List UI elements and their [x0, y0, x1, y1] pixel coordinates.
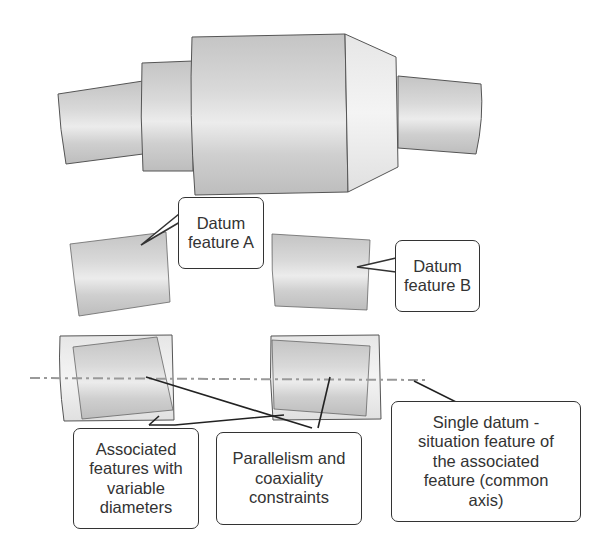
diagram-stage: Datum feature A Datum feature B Associat… [0, 0, 610, 555]
datum-b-line2: feature B [404, 276, 471, 296]
datum-a-line2: feature A [188, 233, 254, 253]
constraints-line2: coaxiality [255, 469, 323, 489]
callout-single-datum: Single datum - situation feature of the … [391, 401, 581, 522]
shaft-right-journal [398, 76, 482, 154]
datum-b-line1: Datum [413, 257, 462, 277]
datum-feature-b-shape [272, 234, 370, 310]
callout-datum-feature-a: Datum feature A [178, 197, 264, 269]
associated-line3: variable [107, 479, 165, 499]
datum-line1: Single datum - [433, 413, 539, 433]
associated-feature-b [270, 335, 381, 420]
shaft-left-shoulder [141, 61, 193, 171]
shaft-part [58, 34, 482, 195]
datum-line3: the associated [433, 452, 539, 472]
datum-a-line1: Datum [197, 214, 246, 234]
constraints-line3: constraints [249, 488, 329, 508]
callout-datum-feature-b: Datum feature B [395, 240, 480, 312]
datum-line4: feature (common [424, 471, 549, 491]
datum-line2: situation feature of [418, 432, 554, 452]
associated-line4: diameters [100, 498, 172, 518]
associated-line2: features with [89, 459, 183, 479]
callout-associated-features: Associated features with variable diamet… [73, 428, 199, 529]
datum-line5: axis) [469, 491, 504, 511]
constraints-line1: Parallelism and [233, 449, 346, 469]
shaft-cone [345, 34, 398, 192]
datum-feature-a-shape [70, 232, 170, 316]
shaft-left-journal [58, 81, 143, 164]
shaft-main-body [191, 34, 348, 195]
associated-line1: Associated [96, 440, 177, 460]
callout-parallelism-constraints: Parallelism and coaxiality constraints [216, 432, 362, 525]
